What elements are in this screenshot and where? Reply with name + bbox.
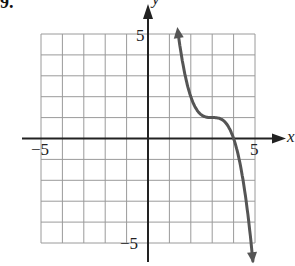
- curve-top-arrow-icon: [174, 27, 184, 39]
- y-min-label: −5: [120, 235, 138, 252]
- axes: [22, 4, 286, 262]
- x-max-label: 5: [250, 141, 259, 158]
- curve-arrow-icons: [174, 27, 257, 263]
- function-graph: [0, 0, 295, 266]
- function-curve: [178, 32, 253, 261]
- y-max-label: 5: [136, 27, 145, 44]
- x-min-label: −5: [31, 141, 49, 158]
- x-axis-label: x: [287, 128, 295, 145]
- x-axis-arrow-icon: [272, 134, 286, 144]
- y-axis-label: y: [152, 0, 160, 7]
